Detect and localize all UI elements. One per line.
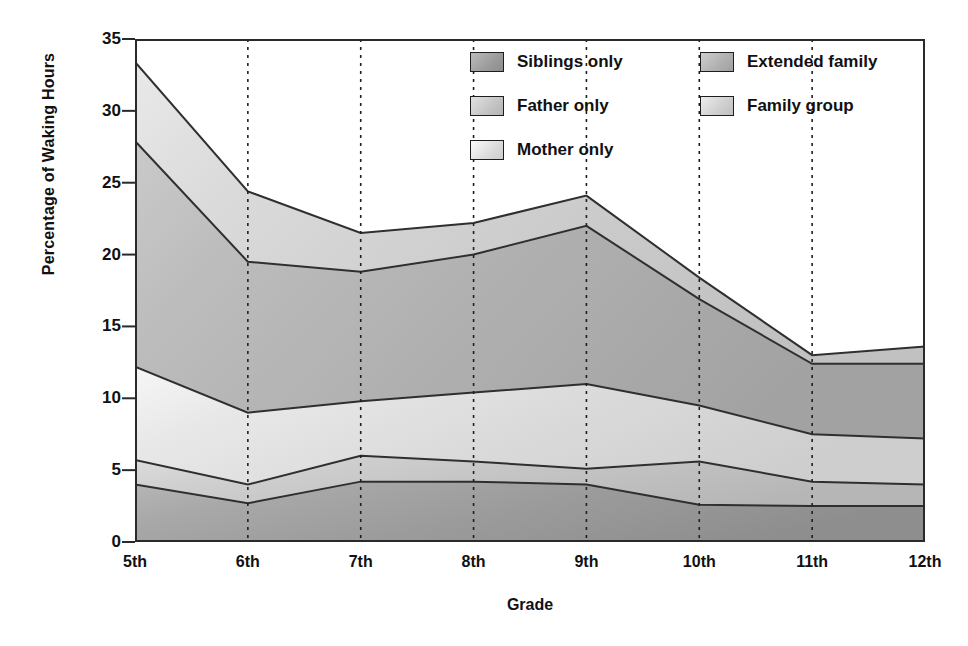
y-axis-title: Percentage of Waking Hours <box>40 19 58 309</box>
y-tick-label: 5 <box>75 461 121 478</box>
legend-swatch <box>470 96 504 116</box>
legend-item[interactable]: Family group <box>700 96 854 116</box>
x-axis-title: Grade <box>135 596 925 614</box>
y-tick-label: 25 <box>75 174 121 191</box>
x-tick-label: 12th <box>885 553 965 571</box>
legend-swatch <box>700 96 734 116</box>
legend-label: Extended family <box>747 52 877 72</box>
x-tick-label: 10th <box>659 553 739 571</box>
legend-item[interactable]: Extended family <box>700 52 877 72</box>
legend-swatch <box>700 52 734 72</box>
legend-swatch <box>470 52 504 72</box>
y-tick-label: 15 <box>75 317 121 334</box>
y-tick-label: 0 <box>75 533 121 550</box>
legend-label: Siblings only <box>517 52 623 72</box>
y-tick-label: 30 <box>75 102 121 119</box>
legend-item[interactable]: Mother only <box>470 140 613 160</box>
y-tick-marks <box>122 37 136 544</box>
x-tick-label: 7th <box>321 553 401 571</box>
legend-label: Father only <box>517 96 609 116</box>
y-tick-label: 20 <box>75 246 121 263</box>
x-tick-label: 11th <box>772 553 852 571</box>
legend-swatch <box>470 140 504 160</box>
y-tick-label: 10 <box>75 389 121 406</box>
x-tick-label: 9th <box>546 553 626 571</box>
x-tick-label: 5th <box>95 553 175 571</box>
chart-canvas: Percentage of Waking Hours Grade 0510152… <box>0 0 968 646</box>
legend-item[interactable]: Father only <box>470 96 609 116</box>
x-tick-label: 6th <box>208 553 288 571</box>
legend-item[interactable]: Siblings only <box>470 52 623 72</box>
x-tick-label: 8th <box>434 553 514 571</box>
legend-label: Family group <box>747 96 854 116</box>
legend-label: Mother only <box>517 140 613 160</box>
y-tick-label: 35 <box>75 30 121 47</box>
